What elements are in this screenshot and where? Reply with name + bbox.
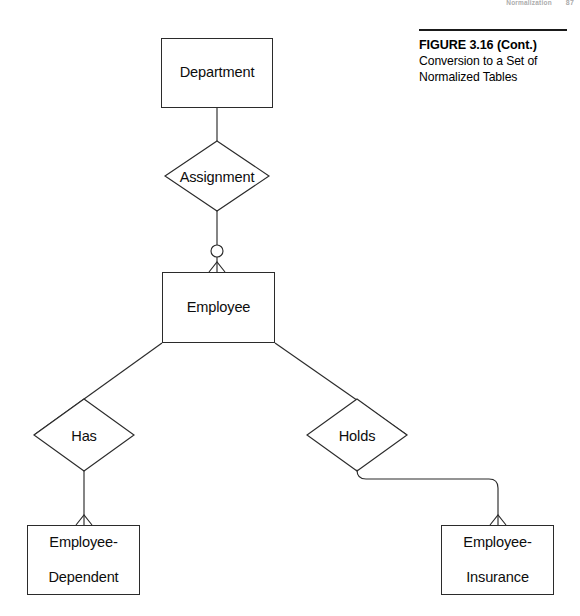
connector-holds-to-insurance: [357, 470, 498, 525]
entity-employee-dependent[interactable]: Employee- Dependent: [27, 525, 140, 595]
entity-employee-insurance-label-line-2: Insurance: [463, 569, 531, 587]
entity-department-label: Department: [180, 64, 255, 82]
relationship-label-has[interactable]: Has: [71, 428, 97, 445]
er-diagram-canvas: [0, 0, 580, 616]
entity-employee-insurance[interactable]: Employee- Insurance: [441, 525, 554, 595]
figure-page: Normalization 87 FIGURE 3.16 (Cont.) Con…: [0, 0, 580, 616]
entity-department[interactable]: Department: [161, 38, 273, 108]
entity-employee-insurance-label: Employee- Insurance: [463, 534, 531, 587]
entity-employee-label: Employee: [187, 299, 251, 317]
entity-employee-dependent-label-line-1: Employee-: [48, 534, 118, 552]
entity-employee[interactable]: Employee: [162, 272, 275, 343]
entity-employee-dependent-label-line-2: Dependent: [48, 569, 118, 587]
optional-cardinality-circle: [211, 245, 223, 257]
relationship-label-holds[interactable]: Holds: [339, 428, 376, 445]
entity-employee-insurance-label-line-1: Employee-: [463, 534, 531, 552]
entity-employee-dependent-label: Employee- Dependent: [48, 534, 118, 587]
relationship-label-assignment[interactable]: Assignment: [180, 169, 255, 186]
